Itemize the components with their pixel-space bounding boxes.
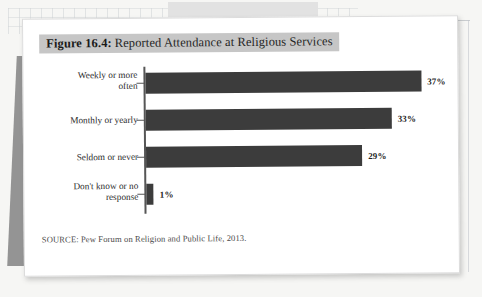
- bar-row: Weekly or moreoften37%: [39, 70, 443, 94]
- category-label: Weekly or moreoften: [37, 70, 137, 92]
- axis-tick: [137, 194, 145, 195]
- bar: [146, 184, 154, 205]
- bar: [145, 71, 421, 94]
- category-label-line: Seldom or never: [38, 152, 138, 163]
- bar-row: Monthly or yearly33%: [40, 107, 444, 131]
- bar-chart-plot-area: Weekly or moreoften37%Monthly or yearly3…: [39, 64, 444, 214]
- bar: [146, 145, 362, 168]
- category-label: Monthly or yearly: [38, 115, 138, 126]
- axis-tick: [137, 83, 145, 84]
- bar-value-label: 1%: [160, 190, 174, 200]
- bar-row: Seldom or never29%: [40, 144, 444, 168]
- category-label: Seldom or never: [38, 152, 138, 163]
- category-label: Don't know or noresponse: [38, 181, 138, 203]
- axis-tick: [137, 120, 145, 121]
- category-label-line: response: [38, 192, 138, 203]
- bar-value-label: 37%: [427, 76, 446, 86]
- category-label-line: Monthly or yearly: [38, 115, 138, 126]
- bar-value-label: 29%: [368, 151, 387, 161]
- category-label-line: Weekly or more: [37, 70, 137, 81]
- bar: [146, 108, 392, 131]
- figure-title-text: Reported Attendance at Religious Service…: [115, 34, 333, 51]
- figure-title-band: Figure 16.4: Reported Attendance at Reli…: [39, 32, 340, 53]
- category-label-line: often: [37, 81, 137, 92]
- axis-tick: [137, 157, 145, 158]
- figure-number-label: Figure 16.4:: [46, 36, 112, 52]
- source-note: SOURCE: Pew Forum on Religion and Public…: [42, 233, 247, 245]
- bars-container: Weekly or moreoften37%Monthly or yearly3…: [39, 64, 443, 67]
- category-label-line: Don't know or no: [38, 181, 138, 192]
- figure-card: Figure 16.4: Reported Attendance at Reli…: [22, 15, 460, 276]
- bar-row: Don't know or noresponse1%: [40, 181, 444, 205]
- hairline-artifact-vertical: [468, 20, 469, 272]
- bar-value-label: 33%: [398, 114, 417, 124]
